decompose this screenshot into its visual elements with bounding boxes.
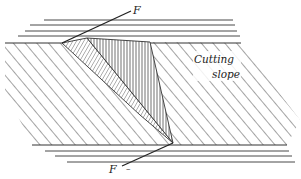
- lower-strata: [45, 151, 295, 162]
- fault-label-bottom: F: [108, 163, 117, 176]
- cutting-slope-label-line2: slope: [212, 68, 240, 80]
- cutting-slope-label-line1: Cutting: [194, 53, 234, 65]
- fault-diagram: F F – Cutting slope: [0, 0, 301, 179]
- fault-line-bottom: [122, 143, 173, 166]
- upper-strata: [18, 20, 240, 36]
- fault-label-top: F: [132, 4, 141, 17]
- bottom-mark: –: [126, 164, 131, 174]
